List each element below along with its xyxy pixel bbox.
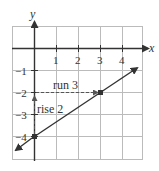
rise-label: rise 2 bbox=[37, 102, 63, 116]
x-tick-label: 4 bbox=[119, 54, 125, 66]
y-tick-label: −1 bbox=[15, 65, 27, 77]
x-axis-label: x bbox=[148, 41, 155, 55]
run-label: run 3 bbox=[53, 78, 78, 92]
y-tick-label: −3 bbox=[15, 109, 27, 121]
point-3-neg2 bbox=[98, 90, 103, 95]
x-tick-label: 1 bbox=[53, 54, 59, 66]
y-tick-label: −2 bbox=[15, 87, 27, 99]
x-tick-label: 3 bbox=[97, 54, 103, 66]
coordinate-graph: x y 1 2 3 4 −1 −2 −3 −4 run 3 rise 2 bbox=[0, 0, 159, 171]
y-tick-label: −4 bbox=[15, 131, 27, 143]
x-tick-label: 2 bbox=[75, 54, 81, 66]
point-y-intercept bbox=[32, 134, 37, 139]
y-axis-label: y bbox=[29, 7, 36, 21]
